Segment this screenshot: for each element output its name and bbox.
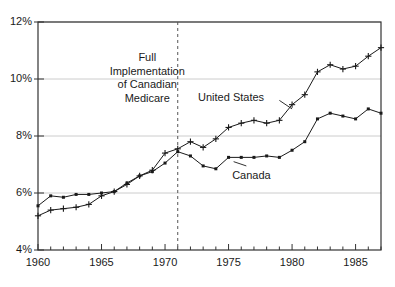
- series-line: [38, 109, 381, 206]
- data-point-marker: [202, 164, 205, 167]
- data-point-marker: [329, 112, 332, 115]
- x-tick-label: 1985: [331, 256, 381, 268]
- data-point-marker: [240, 156, 243, 159]
- data-point-marker: [125, 182, 128, 185]
- data-point-marker: [380, 112, 383, 115]
- data-point-marker: [138, 174, 141, 177]
- chart-plot-area: [0, 0, 395, 287]
- data-point-marker: [151, 170, 154, 173]
- data-point-marker: [367, 107, 370, 110]
- data-point-marker: [189, 154, 192, 157]
- annotation-line: Implementation: [87, 65, 207, 79]
- data-point-marker: [62, 196, 65, 199]
- series-canada: [37, 107, 383, 207]
- canada-label-leader: [234, 162, 247, 166]
- x-tick-label: 1975: [204, 256, 254, 268]
- data-point-marker: [49, 194, 52, 197]
- data-point-marker: [252, 156, 255, 159]
- medicare-annotation: FullImplementationof CanadianMedicare: [87, 51, 207, 105]
- y-tick-label: 6%: [16, 186, 32, 198]
- data-point-marker: [303, 140, 306, 143]
- annotation-line: Medicare: [87, 92, 207, 106]
- data-point-marker: [75, 193, 78, 196]
- x-tick-label: 1965: [77, 256, 127, 268]
- data-point-marker: [227, 156, 230, 159]
- chart-container: 4%6%8%10%12% 196019651970197519801985 Un…: [0, 0, 395, 287]
- x-tick-label: 1960: [13, 256, 63, 268]
- data-point-marker: [265, 154, 268, 157]
- x-axis-ticks: [38, 244, 381, 250]
- data-point-marker: [291, 149, 294, 152]
- data-point-marker: [100, 192, 103, 195]
- data-point-marker: [316, 117, 319, 120]
- annotation-line: of Canadian: [87, 78, 207, 92]
- y-tick-label: 4%: [16, 243, 32, 255]
- annotation-line: Full: [87, 51, 207, 65]
- y-tick-label: 10%: [10, 72, 32, 84]
- x-tick-label: 1970: [140, 256, 190, 268]
- data-point-marker: [164, 162, 167, 165]
- data-point-marker: [354, 117, 357, 120]
- y-tick-label: 12%: [10, 15, 32, 27]
- data-point-marker: [278, 156, 281, 159]
- y-tick-label: 8%: [16, 129, 32, 141]
- series-label-canada: Canada: [211, 169, 291, 181]
- x-tick-label: 1980: [267, 256, 317, 268]
- data-point-marker: [37, 204, 40, 207]
- data-point-marker: [176, 150, 179, 153]
- data-point-marker: [87, 193, 90, 196]
- data-point-marker: [113, 190, 116, 193]
- data-point-marker: [341, 115, 344, 118]
